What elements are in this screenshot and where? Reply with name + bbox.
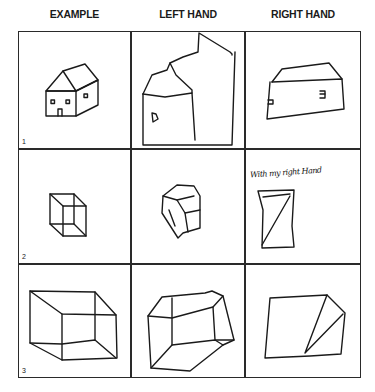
box-copy-right: [0, 0, 375, 392]
